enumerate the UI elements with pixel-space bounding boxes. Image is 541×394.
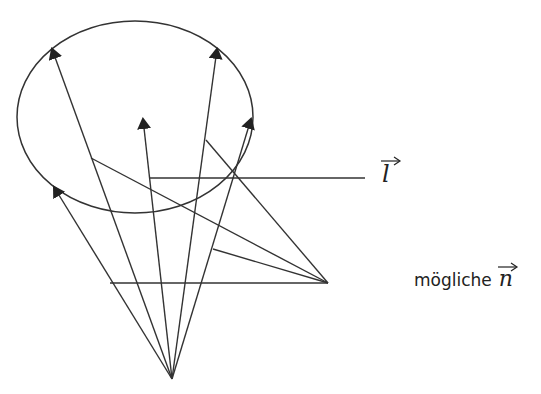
normal-arrow-4 (172, 49, 217, 379)
vector-arrow-icon (380, 156, 402, 166)
construction-lines (91, 140, 365, 283)
reflection-diagram (0, 0, 541, 394)
light-vector-label: l (382, 160, 390, 188)
construction-line-4 (206, 140, 328, 283)
normals-caption: mögliche (414, 270, 492, 290)
possible-normals-label: mögliche n (414, 266, 513, 291)
construction-line-3 (91, 158, 328, 283)
normal-vector: n (499, 266, 513, 291)
vector-arrow-icon (497, 262, 519, 272)
normal-vector-arrows (52, 49, 251, 379)
construction-line-5 (213, 249, 328, 283)
normal-arrow-5 (172, 119, 251, 379)
